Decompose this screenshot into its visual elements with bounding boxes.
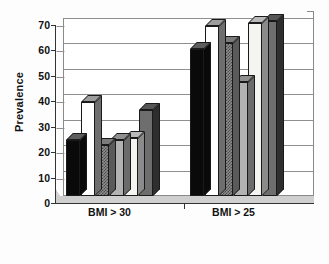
y-axis-tick-mark [51, 25, 56, 26]
y-axis-tick-label: 50 [24, 70, 50, 82]
y-axis-tick-mark [51, 101, 56, 102]
y-axis-tick-mark [51, 76, 56, 77]
y-axis-tick-mark [51, 178, 56, 179]
bar-side-face [95, 95, 102, 196]
bar-side-face [153, 103, 160, 196]
y-axis-line [55, 25, 56, 203]
bar-side-face [248, 75, 255, 196]
bar-side-face [277, 14, 284, 196]
y-axis-tick-label: 30 [24, 121, 50, 133]
bar [190, 49, 204, 196]
bar-side-face [80, 133, 87, 196]
y-axis-tick-mark [51, 127, 56, 128]
y-axis-tick-mark [51, 152, 56, 153]
bar-side-face [219, 19, 226, 196]
bar-side-face [233, 36, 240, 196]
y-axis-tick-label: 60 [24, 44, 50, 56]
y-axis-tick-label: 70 [24, 19, 50, 31]
y-axis-tick-label: 0 [24, 197, 50, 209]
plot-area [56, 18, 314, 203]
chart-figure: Prevalence 010203040506070 BMI > 30 BMI … [0, 0, 329, 264]
bar-side-face [124, 133, 131, 196]
bar [66, 140, 80, 196]
bar-side-face [262, 16, 269, 196]
bar-front-face [66, 140, 80, 196]
y-axis-tick-mark [51, 50, 56, 51]
bar-side-face [204, 42, 211, 196]
y-axis-tick-label: 20 [24, 146, 50, 158]
y-axis-tick-label: 10 [24, 172, 50, 184]
bar-front-face [190, 49, 204, 196]
y-axis-tick-label: 40 [24, 95, 50, 107]
plot-floor [56, 196, 314, 203]
y-axis-tick-labels: 010203040506070 [24, 0, 50, 264]
bar-side-face [109, 138, 116, 196]
bar-side-face [138, 131, 145, 196]
x-axis-label-group-1: BMI > 25 [179, 206, 289, 218]
x-axis-label-group-0: BMI > 30 [55, 206, 165, 218]
